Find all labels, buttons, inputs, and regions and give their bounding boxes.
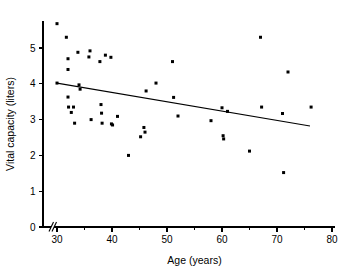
data-point: [222, 134, 225, 137]
regression-line-path: [57, 83, 310, 126]
data-point: [177, 115, 180, 118]
data-point: [248, 150, 251, 153]
data-point: [139, 135, 142, 138]
y-tick-label: 4: [30, 78, 36, 89]
data-points-group: [56, 22, 313, 174]
x-tick-label: 60: [216, 234, 228, 245]
data-point: [67, 96, 70, 99]
data-point: [65, 36, 68, 39]
data-point: [172, 96, 175, 99]
data-point: [100, 103, 103, 106]
data-point: [67, 68, 70, 71]
data-point: [100, 112, 103, 115]
data-point: [281, 112, 284, 115]
regression-line: [57, 83, 310, 126]
data-point: [56, 82, 59, 85]
data-point: [79, 88, 82, 91]
data-point: [72, 106, 75, 109]
x-tick-label: 80: [326, 234, 338, 245]
data-point: [109, 56, 112, 59]
x-axis-title: Age (years): [167, 254, 221, 266]
y-tick-label: 1: [30, 186, 36, 197]
data-point: [145, 89, 148, 92]
data-point: [98, 60, 101, 63]
data-point: [73, 122, 76, 125]
data-point: [78, 83, 81, 86]
data-point: [67, 106, 70, 109]
data-point: [101, 122, 104, 125]
y-axis-title: Vital capacity (liters): [4, 77, 16, 171]
y-tick-label: 2: [30, 150, 36, 161]
y-tick-label: 0: [30, 222, 36, 233]
axes-group: [43, 21, 335, 232]
data-point: [111, 123, 114, 126]
tick-labels-group: 012345304050607080: [30, 43, 338, 245]
data-point: [142, 126, 145, 129]
x-tick-label: 30: [51, 234, 63, 245]
data-point: [87, 55, 90, 58]
data-point: [67, 57, 70, 60]
data-point: [76, 51, 79, 54]
data-point: [56, 22, 59, 25]
data-point: [226, 110, 229, 113]
y-tick-label: 3: [30, 114, 36, 125]
data-point: [127, 154, 130, 157]
data-point: [287, 70, 290, 73]
x-tick-label: 70: [271, 234, 283, 245]
tick-marks-group: [39, 48, 333, 232]
data-point: [104, 54, 107, 57]
data-point: [116, 115, 119, 118]
plot-canvas: 012345304050607080 Age (years)Vital capa…: [0, 0, 363, 272]
x-tick-label: 50: [161, 234, 173, 245]
data-point: [260, 106, 263, 109]
data-point: [259, 36, 262, 39]
data-point: [70, 111, 73, 114]
data-point: [210, 119, 213, 122]
data-point: [90, 118, 93, 121]
data-point: [171, 60, 174, 63]
data-point: [89, 49, 92, 52]
data-point: [221, 106, 224, 109]
data-point: [282, 171, 285, 174]
x-tick-label: 40: [106, 234, 118, 245]
data-point: [144, 131, 147, 134]
data-point: [310, 106, 313, 109]
data-point: [155, 82, 158, 85]
y-tick-label: 5: [30, 43, 36, 54]
data-point: [222, 137, 225, 140]
scatter-plot-figure: 012345304050607080 Age (years)Vital capa…: [0, 0, 363, 272]
